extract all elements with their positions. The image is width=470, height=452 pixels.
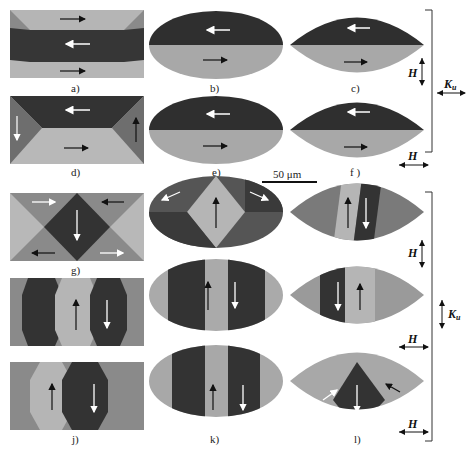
- panel-label: k): [210, 433, 220, 446]
- svg-text:H: H: [407, 246, 418, 260]
- panel-label: c): [351, 82, 360, 95]
- panel-label: f ): [350, 166, 360, 179]
- panel-label: j): [71, 433, 79, 446]
- panel-b: b): [149, 10, 283, 95]
- svg-text:Ku: Ku: [443, 77, 457, 92]
- panel-label: l): [354, 433, 361, 446]
- panel-label: b): [210, 82, 220, 95]
- panel-a: a): [10, 10, 144, 95]
- field-h-vertical-top: H: [407, 58, 422, 85]
- bracket-top: [425, 10, 432, 152]
- svg-text:50 μm: 50 μm: [273, 168, 302, 180]
- svg-text:H: H: [407, 149, 418, 163]
- anisotropy-ku-vertical: Ku: [442, 300, 461, 328]
- svg-text:Ku: Ku: [447, 307, 461, 322]
- panel-e: e): [149, 90, 283, 179]
- panel-d: d): [10, 96, 144, 179]
- panel-c: c): [290, 0, 424, 95]
- panel-k-top: [149, 259, 283, 331]
- panel-j-top: [10, 278, 144, 346]
- anisotropy-ku-horizontal: Ku: [437, 77, 465, 93]
- panel-l: l): [290, 324, 424, 446]
- panel-l-top: [290, 238, 424, 353]
- field-h-horizontal-mid: H: [399, 332, 428, 347]
- svg-text:H: H: [407, 417, 418, 431]
- field-h-horizontal-bottom: H: [399, 417, 428, 432]
- domain-figure: a) b) c) d) e) f ) 50: [0, 0, 470, 452]
- panel-label: a): [71, 82, 80, 95]
- panel-j: j): [10, 362, 144, 446]
- svg-text:H: H: [407, 332, 418, 346]
- field-h-horizontal-top: H: [399, 149, 428, 165]
- panel-k: k): [149, 345, 283, 446]
- panel-label: d): [71, 166, 81, 179]
- bracket-bottom: [425, 192, 432, 441]
- scale-bar: 50 μm: [262, 168, 317, 182]
- svg-text:H: H: [407, 66, 418, 80]
- field-h-vertical-i: H: [407, 240, 422, 267]
- panel-label: g): [71, 264, 81, 277]
- panel-g: g): [10, 193, 144, 277]
